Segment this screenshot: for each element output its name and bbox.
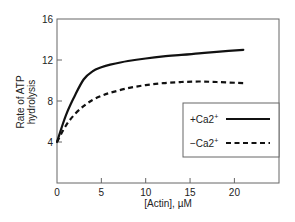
x-tick-label: 15 bbox=[184, 187, 196, 198]
x-tick-label: 5 bbox=[99, 187, 105, 198]
y-tick-label: 16 bbox=[42, 14, 54, 25]
x-tick-label: 20 bbox=[229, 187, 241, 198]
y-axis-title-line-2: hydrolysis bbox=[26, 80, 37, 124]
y-axis-title-line-1: Rate of ATP bbox=[15, 75, 26, 129]
legend: +Ca2+ −Ca2+ bbox=[183, 103, 279, 157]
x-tick-label: 10 bbox=[140, 187, 152, 198]
x-axis: 05101520 bbox=[54, 178, 240, 198]
y-tick-label: 8 bbox=[47, 96, 53, 107]
legend-label: +Ca2+ bbox=[190, 113, 218, 125]
x-tick-label: 0 bbox=[54, 187, 60, 198]
chart: 05101520 481216 [Actin], µM Rate of ATP … bbox=[0, 0, 295, 222]
y-axis: 481216 bbox=[42, 14, 62, 148]
legend-label: −Ca2+ bbox=[190, 137, 218, 149]
y-axis-title: Rate of ATP hydrolysis bbox=[15, 75, 37, 129]
x-axis-title: [Actin], µM bbox=[144, 198, 191, 209]
y-tick-label: 12 bbox=[42, 55, 54, 66]
y-tick-label: 4 bbox=[47, 137, 53, 148]
